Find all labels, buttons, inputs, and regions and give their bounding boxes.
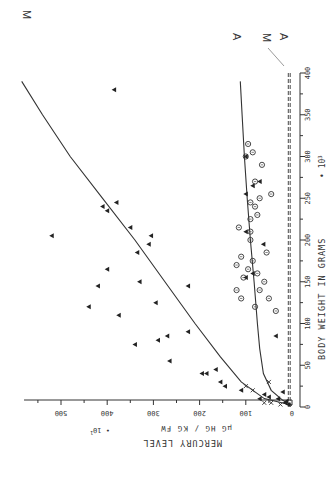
triangle-marker: [105, 208, 110, 213]
triangle-marker: [250, 271, 255, 276]
triangle-marker: [186, 283, 191, 288]
x-tick-label: 100: [304, 317, 312, 330]
y-axis-title: MERCURY LEVEL: [142, 438, 222, 448]
triangle-marker: [86, 304, 91, 309]
x-axis-multiplier: • 103: [317, 155, 327, 178]
cross-marker: [269, 401, 273, 405]
triangle-marker: [116, 313, 121, 318]
y-tick-label: 400: [101, 409, 114, 417]
curve-label-a-upper: A: [231, 33, 243, 41]
triangle-marker: [218, 379, 223, 384]
x-tick-label: 350: [304, 108, 312, 121]
x-tick-label: 300: [304, 150, 312, 163]
triangle-marker: [112, 87, 117, 92]
triangle-marker: [153, 300, 158, 305]
triangle-marker: [100, 204, 105, 209]
triangle-marker: [132, 342, 137, 347]
triangle-marker: [105, 267, 110, 272]
curve-a: [240, 81, 292, 405]
triangle-marker: [239, 388, 244, 393]
y-tick-label: 300: [147, 409, 160, 417]
triangle-marker: [156, 338, 161, 343]
data-markers: [49, 87, 290, 407]
triangle-marker: [149, 233, 154, 238]
x-axis-title: BODY WEIGHT IN GRAMS: [317, 238, 327, 360]
triangle-marker: [146, 242, 151, 247]
triangle-marker: [95, 283, 100, 288]
triangle-marker: [223, 384, 228, 389]
y-tick-label: 0: [290, 409, 294, 417]
curve-m: [22, 81, 292, 405]
triangle-marker: [167, 359, 172, 364]
x-tick-label: 150: [304, 275, 312, 288]
y-tick-label: 100: [239, 409, 252, 417]
x-tick-label: 250: [304, 192, 312, 205]
y-tick-label: 200: [193, 409, 206, 417]
curve-label-m-upper: M: [21, 10, 33, 19]
curve-label-m-lower: M: [261, 33, 273, 42]
x-tick-label: 50: [304, 361, 312, 369]
cross-marker: [278, 402, 282, 406]
y-axis-units: µG HG / KG FW: [160, 424, 232, 433]
mercury-vs-body-weight-chart: 0100200300400500050100150200250300350400…: [0, 0, 333, 481]
x-tick-label: 200: [304, 234, 312, 247]
triangle-marker: [204, 371, 209, 376]
triangle-marker: [262, 392, 267, 397]
triangle-marker: [186, 329, 191, 334]
triangle-marker: [135, 250, 140, 255]
x-tick-label: 400: [304, 67, 312, 80]
axes: 0100200300400500050100150200250300350400: [24, 67, 312, 417]
triangle-marker: [137, 279, 142, 284]
triangle-marker: [243, 229, 248, 234]
triangle-marker: [114, 200, 119, 205]
triangle-marker: [165, 334, 170, 339]
triangle-marker: [261, 242, 266, 247]
curve-label-a-lower: A: [278, 33, 290, 41]
triangle-marker: [273, 334, 278, 339]
triangle-marker: [213, 367, 218, 372]
y-axis-multiplier: • 101: [90, 426, 110, 436]
triangle-marker: [243, 192, 248, 197]
cross-marker: [262, 401, 266, 405]
triangle-marker: [280, 389, 285, 394]
x-tick-label: 0: [304, 405, 312, 409]
triangle-marker: [199, 371, 204, 376]
y-tick-label: 500: [55, 409, 68, 417]
fitted-curves: [22, 48, 292, 407]
cross-marker: [251, 388, 255, 392]
triangle-marker: [128, 225, 133, 230]
triangle-marker: [49, 233, 54, 238]
